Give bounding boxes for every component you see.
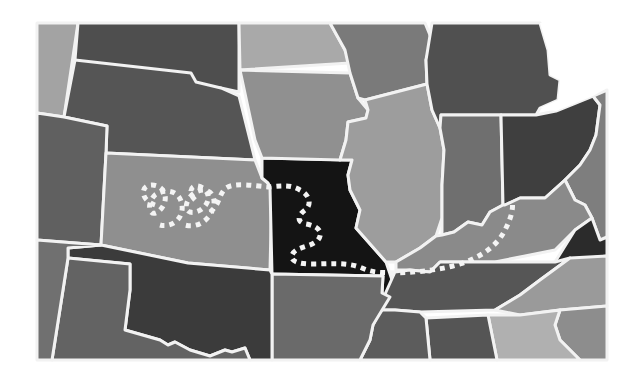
map-container <box>0 0 639 385</box>
state-colorado-west[interactable] <box>37 113 107 245</box>
states-layer <box>37 23 607 360</box>
us-central-states-map[interactable] <box>0 0 639 385</box>
state-alabama-west[interactable] <box>426 315 497 360</box>
